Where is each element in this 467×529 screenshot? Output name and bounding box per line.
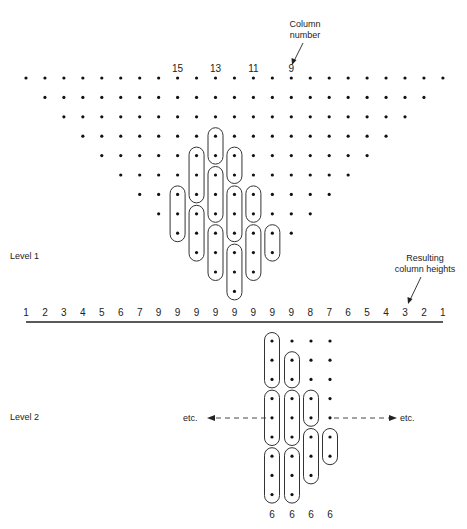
bit-dot (290, 193, 293, 196)
bit-dot (233, 115, 236, 118)
level2-resulting-heights: 6666 (269, 509, 333, 520)
bit-dot (271, 154, 274, 157)
bit-dot (309, 135, 312, 138)
bit-dot (290, 135, 293, 138)
bit-dot (233, 135, 236, 138)
bit-dot (290, 154, 293, 157)
column-height-value: 9 (289, 307, 295, 318)
level1-dot-matrix (24, 76, 444, 293)
level2-label: Level 2 (10, 412, 39, 422)
bit-dot (384, 76, 387, 79)
bit-dot (422, 96, 425, 99)
bit-dot (195, 154, 198, 157)
column-height-value: 4 (383, 307, 389, 318)
column-height-value: 7 (326, 307, 332, 318)
column-label: 13 (210, 63, 222, 74)
bit-dot (328, 378, 331, 381)
bit-dot (100, 154, 103, 157)
bit-dot (366, 135, 369, 138)
bit-dot (270, 359, 273, 362)
bit-dot (290, 76, 293, 79)
etc-left-label: etc. (183, 413, 198, 423)
bit-dot (309, 154, 312, 157)
bit-dot (328, 154, 331, 157)
column-height-value: 7 (137, 307, 143, 318)
bit-dot (384, 135, 387, 138)
bit-dot (309, 359, 312, 362)
left-dashed-arrow-icon (207, 415, 266, 421)
column-height-value: 5 (364, 307, 370, 318)
bit-dot (290, 232, 293, 235)
column-height-value: 2 (421, 307, 427, 318)
column-height-value: 1 (440, 307, 446, 318)
resulting-heights-caption-line2: column heights (395, 264, 456, 274)
bit-dot (441, 76, 444, 79)
bit-dot (233, 212, 236, 215)
column-height-value: 4 (80, 307, 86, 318)
bit-dot (290, 397, 293, 400)
bit-dot (214, 154, 217, 157)
column-label: 11 (248, 63, 259, 74)
column-height-value: 6 (308, 509, 314, 520)
bit-dot (233, 154, 236, 157)
bit-dot (309, 455, 312, 458)
bit-dot (252, 76, 255, 79)
column-height-value: 9 (213, 307, 219, 318)
bit-dot (309, 212, 312, 215)
column-height-value: 6 (345, 307, 351, 318)
bit-dot (290, 474, 293, 477)
bit-dot (157, 115, 160, 118)
bit-dot (138, 135, 141, 138)
column-height-value: 9 (175, 307, 181, 318)
bit-dot (157, 96, 160, 99)
column-height-value: 3 (61, 307, 67, 318)
bit-dot (309, 173, 312, 176)
bit-dot (252, 232, 255, 235)
bit-dot (214, 232, 217, 235)
bit-dot (271, 251, 274, 254)
bit-dot (214, 135, 217, 138)
bit-dot (233, 193, 236, 196)
adder-group-oval (246, 186, 261, 222)
bit-dot (366, 96, 369, 99)
bit-dot (176, 76, 179, 79)
bit-dot (309, 397, 312, 400)
column-number-caption-line1: Column (289, 19, 320, 29)
bit-dot (214, 173, 217, 176)
bit-dot (422, 76, 425, 79)
bit-dot (270, 339, 273, 342)
bit-dot (157, 135, 160, 138)
bit-dot (157, 154, 160, 157)
bit-dot (62, 115, 65, 118)
bit-dot (195, 115, 198, 118)
bit-dot (309, 193, 312, 196)
bit-dot (328, 397, 331, 400)
bit-dot (328, 115, 331, 118)
bit-dot (328, 173, 331, 176)
bit-dot (270, 378, 273, 381)
bit-dot (252, 270, 255, 273)
bit-dot (290, 212, 293, 215)
bit-dot (138, 96, 141, 99)
bit-dot (252, 251, 255, 254)
bit-dot (176, 173, 179, 176)
bit-dot (328, 455, 331, 458)
etc-right-label: etc. (400, 413, 415, 423)
bit-dot (214, 115, 217, 118)
bit-dot (309, 435, 312, 438)
bit-dot (290, 455, 293, 458)
bit-dot (233, 232, 236, 235)
bit-dot (290, 173, 293, 176)
bit-dot (119, 96, 122, 99)
bit-dot (195, 212, 198, 215)
bit-dot (195, 135, 198, 138)
bit-dot (176, 232, 179, 235)
bit-dot (100, 96, 103, 99)
bit-dot (309, 96, 312, 99)
bit-dot (290, 359, 293, 362)
bit-dot (176, 135, 179, 138)
right-dashed-arrow-icon (334, 415, 397, 421)
column-height-value: 6 (269, 509, 275, 520)
bit-dot (366, 115, 369, 118)
bit-dot (252, 135, 255, 138)
